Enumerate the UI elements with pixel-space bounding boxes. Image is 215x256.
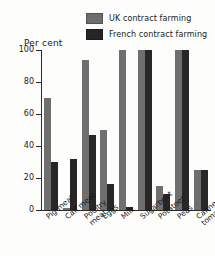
bar (145, 50, 152, 210)
bar (182, 50, 189, 210)
legend-item-uk: UK contract farming (86, 12, 207, 25)
legend-item-french: French contract farming (86, 28, 207, 41)
bar-group (98, 50, 117, 210)
y-tick-mark (36, 210, 42, 211)
bar-group (191, 50, 210, 210)
y-tick-label: 60 (0, 109, 34, 118)
bar-group (117, 50, 136, 210)
uk-swatch-icon (86, 13, 103, 24)
bar-group (135, 50, 154, 210)
chart-legend: UK contract farming French contract farm… (86, 12, 207, 44)
y-tick-label: 40 (0, 141, 34, 150)
y-tick-label: 100 (0, 45, 34, 54)
bar (138, 50, 145, 210)
bar (194, 170, 201, 210)
legend-label-uk: UK contract farming (109, 14, 191, 23)
bar (175, 50, 182, 210)
bar (44, 98, 51, 210)
bar-group (154, 50, 173, 210)
bar-group (42, 50, 61, 210)
bar-group (173, 50, 192, 210)
bar-group (79, 50, 98, 210)
legend-label-french: French contract farming (109, 30, 207, 39)
bar-groups (42, 50, 210, 210)
bar-group (61, 50, 80, 210)
bar (82, 60, 89, 210)
bar (119, 50, 126, 210)
french-swatch-icon (86, 29, 103, 40)
y-tick-label: 0 (0, 205, 34, 214)
y-tick-label: 20 (0, 173, 34, 182)
x-axis-labels: Pig meatCalf meatPoultry meatEggsMilkSug… (42, 212, 210, 256)
y-tick-label: 80 (0, 77, 34, 86)
bar-chart: UK contract farming French contract farm… (0, 0, 215, 256)
